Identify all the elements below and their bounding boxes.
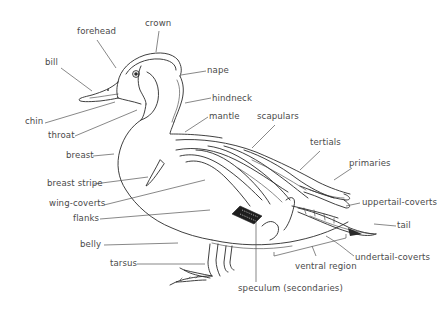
label-tertials: tertials xyxy=(310,138,341,147)
duck-head xyxy=(79,53,183,122)
label-belly: belly xyxy=(80,240,101,249)
label-hindneck: hindneck xyxy=(212,94,252,103)
label-mantle: mantle xyxy=(209,112,240,121)
label-breast-stripe: breast stripe xyxy=(47,179,103,188)
label-primaries: primaries xyxy=(349,159,391,168)
label-scapulars: scapulars xyxy=(257,112,299,121)
label-speculum: speculum (secondaries) xyxy=(238,284,343,293)
duck-legs xyxy=(170,244,234,285)
label-undertail-coverts: undertail-coverts xyxy=(355,253,430,262)
label-tail: tail xyxy=(397,221,411,230)
label-throat: throat xyxy=(48,131,75,140)
duck-wing xyxy=(146,140,350,225)
label-chin: chin xyxy=(25,117,43,126)
label-crown: crown xyxy=(145,19,171,28)
duck-tail xyxy=(298,208,376,236)
label-nape: nape xyxy=(207,66,229,75)
label-breast: breast xyxy=(66,151,94,160)
label-tarsus: tarsus xyxy=(110,259,137,268)
label-flanks: flanks xyxy=(73,214,99,223)
label-ventral-region: ventral region xyxy=(295,262,357,271)
label-bill: bill xyxy=(45,58,58,67)
label-wing-coverts: wing-coverts xyxy=(49,199,105,208)
duck-topography-diagram: crown forehead bill nape hindneck mantle… xyxy=(0,0,448,309)
label-uppertail-coverts: uppertail-coverts xyxy=(362,198,437,207)
label-forehead: forehead xyxy=(77,27,116,36)
